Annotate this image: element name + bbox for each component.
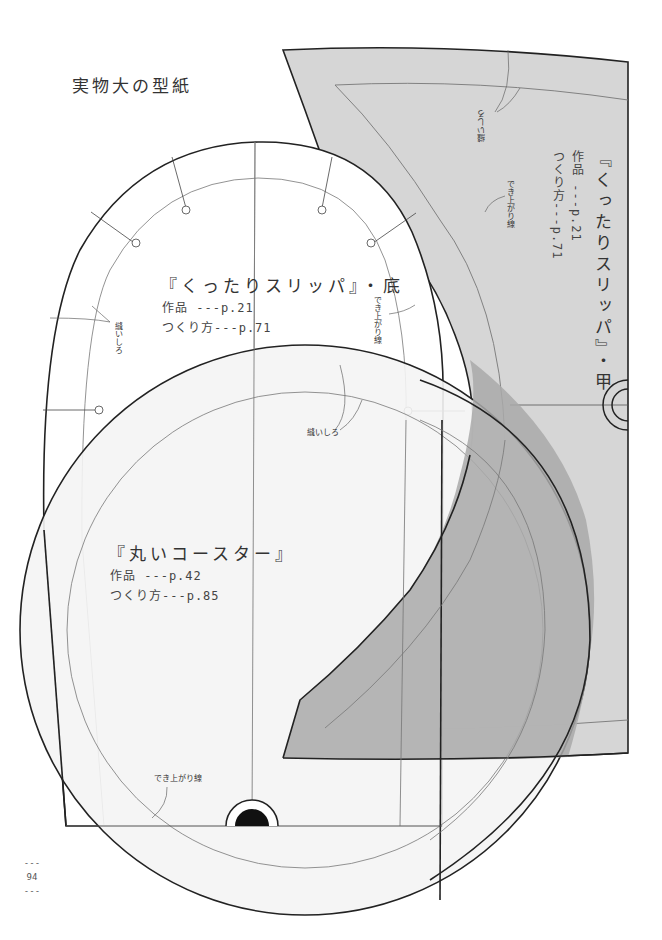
coaster-finish-label: でき上がり線 bbox=[154, 772, 202, 783]
instep-seam-label: 縫いしろ bbox=[476, 110, 487, 142]
page-number-block: --- 94 --- bbox=[20, 856, 44, 898]
sole-finish-label: でき上がり線 bbox=[371, 296, 382, 344]
page-number-dash-top: --- bbox=[20, 856, 44, 870]
page-number: 94 bbox=[20, 870, 44, 884]
sole-work-ref: 作品 ---p.21 bbox=[162, 298, 254, 315]
page-title: 実物大の型紙 bbox=[72, 72, 192, 97]
sole-title: 『くったりスリッパ』・底 bbox=[160, 272, 404, 297]
instep-work-ref: 作品 ---p.21 bbox=[568, 150, 585, 242]
coaster-seam-label: 縫いしろ bbox=[307, 426, 339, 437]
coaster-howto-ref: つくり方---p.85 bbox=[110, 586, 220, 603]
coaster-title: 『丸いコースター』 bbox=[108, 540, 296, 565]
instep-howto-ref: つくり方---p.71 bbox=[549, 150, 566, 260]
instep-finish-label: でき上がり線 bbox=[504, 180, 515, 228]
sole-seam-label: 縫いしろ bbox=[112, 322, 123, 354]
coaster-work-ref: 作品 ---p.42 bbox=[110, 566, 202, 583]
pattern-sheet bbox=[0, 0, 662, 940]
sole-howto-ref: つくり方---p.71 bbox=[162, 318, 272, 335]
instep-title: 『くったりスリッパ』・甲 bbox=[590, 150, 615, 394]
page-number-dash-bottom: --- bbox=[20, 884, 44, 898]
